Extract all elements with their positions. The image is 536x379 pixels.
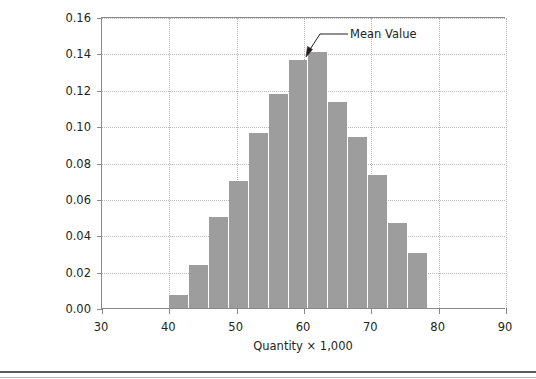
gridline-vertical — [439, 18, 440, 308]
y-axis-tick-label: 0.04 — [31, 229, 91, 243]
y-axis-tick — [97, 200, 102, 201]
chart-figure: Probability of Quantity Equaling Specifi… — [0, 0, 536, 379]
gridline-vertical — [506, 18, 507, 308]
x-axis-tick-label: 30 — [81, 320, 121, 334]
x-axis-tick — [237, 308, 238, 314]
y-axis-tick-label: 0.16 — [31, 11, 91, 25]
x-axis-tick — [304, 308, 305, 314]
y-axis-tick-label: 0.08 — [31, 157, 91, 171]
y-axis-tick — [97, 54, 102, 55]
x-axis-tick-label: 90 — [485, 320, 525, 334]
x-axis-tick — [102, 308, 103, 314]
x-axis-tick-label: 60 — [283, 320, 323, 334]
x-axis-tick-label: 70 — [350, 320, 390, 334]
y-axis-tick-label: 0.14 — [31, 47, 91, 61]
y-axis-tick — [97, 18, 102, 19]
x-axis-tick — [439, 308, 440, 314]
x-axis-title: Quantity × 1,000 — [101, 339, 505, 353]
y-axis-tick-label: 0.00 — [31, 302, 91, 316]
y-axis-tick — [97, 127, 102, 128]
histogram-bar — [308, 52, 328, 308]
y-axis-tick-label: 0.10 — [31, 120, 91, 134]
y-axis-tick-label: 0.02 — [31, 266, 91, 280]
histogram-bar — [408, 253, 428, 308]
x-axis-tick — [371, 308, 372, 314]
histogram-bar — [249, 133, 269, 309]
x-axis-tick — [169, 308, 170, 314]
histogram-bar — [328, 102, 348, 308]
histogram-bar — [368, 175, 388, 308]
footer-divider — [0, 371, 536, 373]
y-axis-tick — [97, 164, 102, 165]
gridline-vertical — [169, 18, 170, 308]
mean-value-annotation-leader — [300, 20, 360, 62]
y-axis-tick-label: 0.12 — [31, 84, 91, 98]
y-axis-tick — [97, 273, 102, 274]
y-axis-tick — [97, 91, 102, 92]
histogram-bar — [388, 223, 408, 308]
x-axis-tick-label: 50 — [216, 320, 256, 334]
histogram-bar — [269, 94, 289, 308]
x-axis-tick — [506, 308, 507, 314]
x-axis-tick-label: 80 — [418, 320, 458, 334]
x-axis-tick-label: 40 — [148, 320, 188, 334]
histogram-bar — [229, 181, 249, 308]
histogram-bar — [209, 217, 229, 308]
y-axis-tick — [97, 236, 102, 237]
footer-divider-secondary — [0, 377, 536, 378]
y-axis-tick-label: 0.06 — [31, 193, 91, 207]
histogram-bar — [169, 295, 189, 308]
histogram-bar — [189, 265, 209, 308]
histogram-bar — [289, 60, 309, 308]
histogram-bar — [348, 137, 368, 308]
